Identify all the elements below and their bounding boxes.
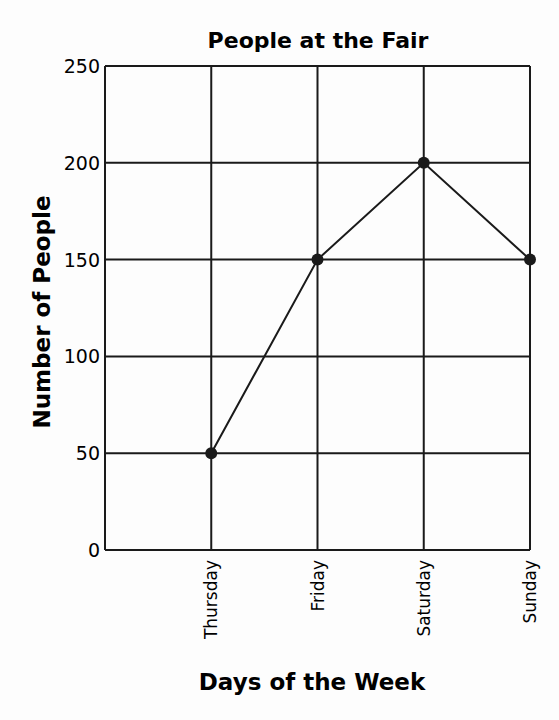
x-axis-label: Days of the Week xyxy=(199,669,426,695)
y-axis-label: Number of People xyxy=(29,195,55,428)
data-series xyxy=(205,157,536,459)
grid-lines xyxy=(105,66,530,550)
x-category-labels: ThursdayFridaySaturdaySunday xyxy=(201,560,540,640)
y-tick-label: 0 xyxy=(88,539,100,561)
data-point-marker xyxy=(418,157,430,169)
x-category-label: Friday xyxy=(308,560,328,612)
x-category-label: Saturday xyxy=(414,560,434,637)
y-tick-label: 100 xyxy=(64,345,100,367)
line-chart: 050100150200250 ThursdayFridaySaturdaySu… xyxy=(0,0,559,720)
series-line xyxy=(211,163,530,453)
y-tick-label: 200 xyxy=(64,152,100,174)
data-point-marker xyxy=(524,254,536,266)
y-tick-label: 50 xyxy=(76,442,100,464)
data-point-marker xyxy=(205,447,217,459)
y-tick-label: 250 xyxy=(64,55,100,77)
data-point-marker xyxy=(312,254,324,266)
chart-title: People at the Fair xyxy=(208,28,429,53)
x-category-label: Thursday xyxy=(201,560,221,640)
y-tick-labels: 050100150200250 xyxy=(64,55,100,561)
y-tick-label: 150 xyxy=(64,249,100,271)
x-category-label: Sunday xyxy=(520,560,540,624)
